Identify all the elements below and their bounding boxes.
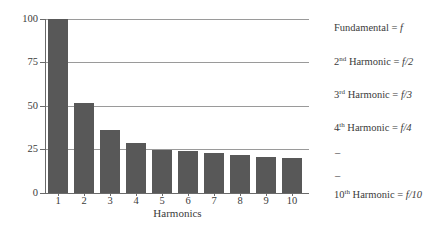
bar-harmonic-1 bbox=[48, 19, 68, 193]
bar-harmonic-7 bbox=[204, 153, 224, 193]
legend-entry-name: Harmonic bbox=[345, 122, 390, 133]
bar-harmonic-4 bbox=[126, 143, 146, 194]
y-tick-label-25: 25 bbox=[28, 144, 39, 155]
x-axis-title: Harmonics bbox=[46, 207, 309, 220]
legend-entry-equals: = bbox=[395, 189, 406, 200]
legend-ellipsis-dash-2: – bbox=[335, 147, 340, 159]
legend-entry-value: f/4 bbox=[401, 122, 412, 133]
legend-ellipsis-dash-1: – bbox=[335, 123, 340, 135]
legend-entry-name: Harmonic bbox=[350, 189, 395, 200]
y-tick-label-0: 0 bbox=[33, 188, 38, 199]
x-tick-label-2: 2 bbox=[71, 195, 97, 207]
legend-entry-value: f/3 bbox=[401, 89, 412, 100]
legend-entry-equals: = bbox=[389, 22, 400, 33]
plot-area bbox=[46, 19, 309, 193]
x-tick-label-6: 6 bbox=[175, 195, 201, 207]
bar-harmonic-5 bbox=[152, 150, 172, 194]
legend-entry-3rd-harmonic: 3rd Harmonic = f/3 bbox=[334, 89, 412, 101]
bar-harmonic-8 bbox=[230, 155, 250, 193]
x-tick-label-4: 4 bbox=[123, 195, 149, 207]
legend-entry-value: f bbox=[400, 22, 403, 33]
legend-entry-ordinal: 10 bbox=[334, 189, 345, 200]
legend-entry-10th-harmonic: 10th Harmonic = f/10 bbox=[334, 189, 422, 201]
x-tick-label-10: 10 bbox=[279, 195, 305, 207]
legend-entry-value: f/2 bbox=[402, 56, 413, 67]
y-tick-label-75: 75 bbox=[28, 57, 39, 68]
y-tick-label-100: 100 bbox=[22, 14, 38, 25]
legend: Fundamental = f 2nd Harmonic = f/2 3rd H… bbox=[334, 0, 448, 227]
bar-harmonic-3 bbox=[100, 130, 120, 193]
y-tick-label-50: 50 bbox=[28, 101, 39, 112]
x-tick-label-9: 9 bbox=[253, 195, 279, 207]
x-tick-label-1: 1 bbox=[45, 195, 71, 207]
legend-entry-equals: = bbox=[389, 122, 400, 133]
legend-entry-fundamental: Fundamental = f bbox=[334, 22, 403, 34]
legend-ellipsis-dash-3: – bbox=[335, 170, 340, 182]
gridline-75 bbox=[46, 62, 309, 63]
legend-entry-equals: = bbox=[390, 89, 401, 100]
bar-harmonic-9 bbox=[256, 157, 276, 194]
legend-entry-equals: = bbox=[391, 56, 402, 67]
gridline-100 bbox=[46, 19, 309, 20]
x-tick-label-3: 3 bbox=[97, 195, 123, 207]
y-axis-tick-labels: 100 75 50 25 0 bbox=[0, 0, 38, 227]
legend-entry-name: Harmonic bbox=[345, 89, 390, 100]
legend-entry-2nd-harmonic: 2nd Harmonic = f/2 bbox=[334, 56, 413, 68]
x-tick-label-5: 5 bbox=[149, 195, 175, 207]
legend-entry-name: Fundamental bbox=[334, 22, 389, 33]
legend-entry-value: f/10 bbox=[406, 189, 422, 200]
bar-harmonic-2 bbox=[74, 103, 94, 194]
bar-harmonic-10 bbox=[282, 158, 302, 193]
x-tick-label-7: 7 bbox=[201, 195, 227, 207]
legend-entry-4th-harmonic: 4th Harmonic = f/4 bbox=[334, 122, 412, 134]
bar-harmonic-6 bbox=[178, 151, 198, 193]
x-tick-label-8: 8 bbox=[227, 195, 253, 207]
bar-chart-figure: 100 75 50 25 0 1 2 3 bbox=[0, 0, 448, 227]
legend-entry-name: Harmonic bbox=[346, 56, 391, 67]
